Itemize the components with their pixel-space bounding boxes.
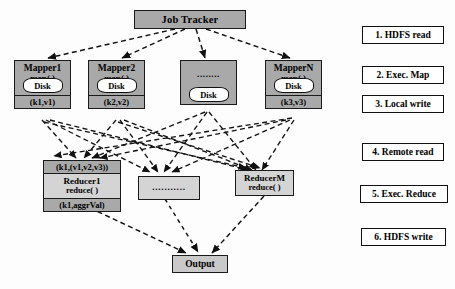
legend-item-local-write: 3. Local write (362, 95, 444, 113)
mapper-body: ........ Disk (180, 60, 237, 105)
mapper-output-kv: (k1,v1) (14, 96, 71, 109)
disk-icon: Disk (97, 78, 137, 93)
legend-label: 2. Exec. Map (377, 70, 430, 80)
disk-icon: Disk (23, 78, 63, 93)
legend-item-hdfs-write: 6. HDFS write (361, 228, 446, 246)
mapper-node-ellipsis: ........ Disk (180, 60, 237, 105)
mapper-output-kv: (k2,v2) (88, 96, 145, 109)
legend-label: 6. HDFS write (374, 232, 432, 242)
reducer-body: Reducer1 reduce( ) (43, 174, 121, 198)
mapreduce-diagram: Job Tracker Mapper1 map( ) Disk (k1,v1) … (0, 0, 455, 289)
reducer-node-1[interactable]: (k1,(v1,v2,v3)) Reducer1 reduce( ) (k1,a… (43, 160, 121, 212)
reducer-output-kv: (k1,aggrVal) (43, 198, 121, 212)
legend-item-exec-map: 2. Exec. Map (362, 66, 444, 84)
mapper-node-2[interactable]: Mapper2 map( ) Disk (k2,v2) (88, 60, 145, 109)
job-tracker-label: Job Tracker (162, 14, 219, 25)
legend-label: 1. HDFS read (375, 30, 431, 40)
reducer-node-ellipsis: ........... (138, 176, 200, 200)
legend-item-exec-reduce: 5. Exec. Reduce (360, 185, 448, 203)
legend-label: 5. Exec. Reduce (372, 189, 436, 199)
reducer-function: reduce( ) (248, 183, 280, 192)
mapper-node-n[interactable]: MapperN map( ) Disk (k3,v3) (265, 60, 322, 109)
reducer-node-m[interactable]: ReducerM reduce( ) (235, 170, 294, 196)
mapper-body: Mapper1 map( ) Disk (14, 60, 71, 96)
reducer-ellipsis-label: ........... (152, 183, 186, 192)
output-node[interactable]: Output (172, 255, 228, 273)
reducer-function: reduce( ) (66, 186, 98, 195)
mapper-body: MapperN map( ) Disk (265, 60, 322, 96)
output-label: Output (185, 259, 215, 269)
legend-item-hdfs-read: 1. HDFS read (362, 26, 444, 44)
mapper-output-kv: (k3,v3) (265, 96, 322, 109)
legend-label: 3. Local write (375, 99, 431, 109)
disk-icon: Disk (274, 78, 314, 93)
legend-label: 4. Remote read (372, 147, 433, 157)
legend-item-remote-read: 4. Remote read (362, 143, 444, 161)
job-tracker-node[interactable]: Job Tracker (134, 10, 246, 29)
mapper-ellipsis-label: ........ (197, 64, 220, 79)
mapper-body: Mapper2 map( ) Disk (88, 60, 145, 96)
disk-icon: Disk (189, 87, 229, 102)
mapper-node-1[interactable]: Mapper1 map( ) Disk (k1,v1) (14, 60, 71, 109)
reducer-input-kv: (k1,(v1,v2,v3)) (43, 160, 121, 174)
